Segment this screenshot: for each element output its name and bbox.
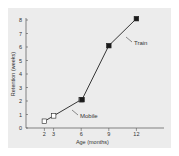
data-point-train [80,97,85,102]
data-point-train [134,16,139,21]
y-tick-label: 5 [19,58,22,64]
y-tick-label: 6 [19,44,22,50]
chart-svg: 012345678236912 MobileTrain Age (months)… [0,0,179,156]
y-tick-label: 4 [19,71,22,77]
data-point-mobile [51,114,56,119]
x-tick-label: 9 [107,131,110,137]
data-point-train [107,43,112,48]
y-axis-title: Retention (weeks) [10,52,16,96]
x-tick-label: 2 [43,131,46,137]
y-tick-label: 7 [19,31,22,37]
y-tick-label: 8 [19,17,22,23]
x-axis-title: Age (months) [76,139,109,145]
x-tick-label: 6 [80,131,83,137]
annotation-label-train: Train [134,40,147,46]
x-tick-label: 3 [52,131,55,137]
y-tick-label: 3 [19,85,22,91]
y-tick-label: 0 [19,125,22,131]
chart-container: 012345678236912 MobileTrain Age (months)… [0,0,179,156]
plot-background [8,8,171,148]
y-tick-label: 2 [19,98,22,104]
annotation-label-mobile: Mobile [80,113,98,119]
y-tick-label: 1 [19,112,22,118]
data-point-mobile [42,119,47,124]
x-tick-label: 12 [133,131,139,137]
